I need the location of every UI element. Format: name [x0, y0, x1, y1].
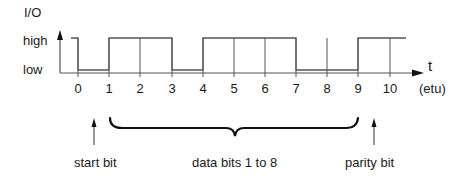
timing-diagram [0, 0, 466, 181]
parity-bit-arrow-icon [372, 118, 377, 127]
start-bit-arrow-icon [92, 118, 97, 127]
y-axis-arrow-icon [57, 30, 63, 40]
parity-bit-label: parity bit [345, 156, 394, 169]
x-axis-arrow-icon [412, 70, 424, 77]
start-bit-label: start bit [74, 156, 117, 169]
signal-waveform [71, 38, 406, 70]
data-bits-brace [110, 118, 358, 136]
data-bits-label: data bits 1 to 8 [192, 156, 277, 169]
bit-boundaries [78, 38, 390, 77]
